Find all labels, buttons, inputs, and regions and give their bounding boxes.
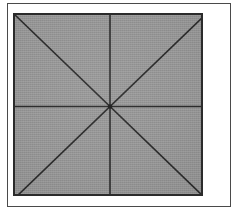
center-point [108, 104, 113, 109]
sector-lines-group [15, 15, 203, 196]
page-border [7, 3, 231, 207]
shaded-square [13, 13, 203, 196]
figure-canvas [0, 0, 239, 213]
